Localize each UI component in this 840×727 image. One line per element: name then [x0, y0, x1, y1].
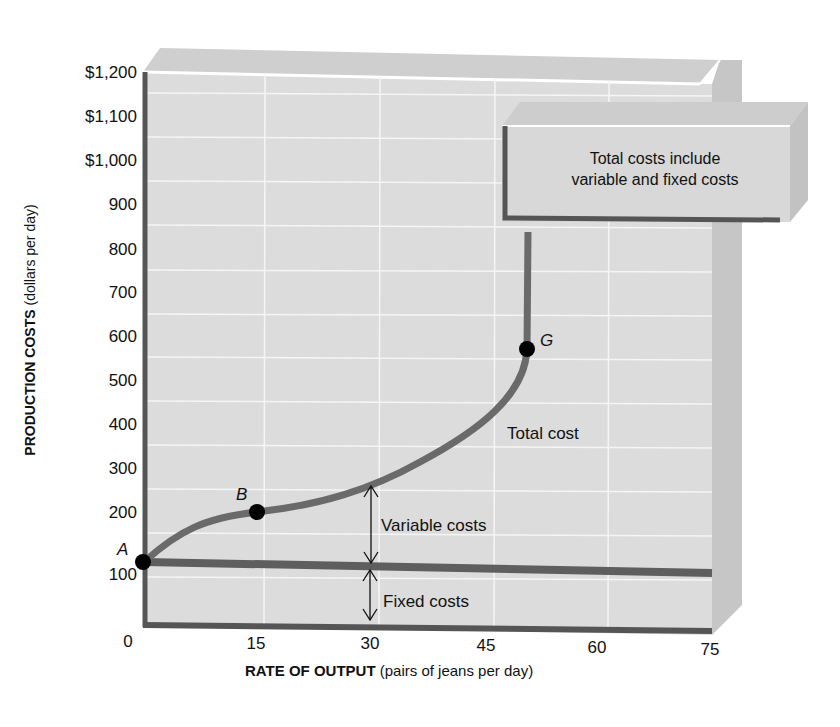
x-axis-label: RATE OF OUTPUT (pairs of jeans per day) [245, 662, 533, 679]
point-b-label: B [236, 485, 247, 505]
point-b-marker [249, 504, 265, 520]
point-g-marker [519, 341, 535, 357]
fixed-costs-label: Fixed costs [383, 592, 469, 612]
variable-costs-label: Variable costs [381, 516, 487, 536]
total-cost-chart: $1,200 $1,100 $1,000 900 800 700 600 500… [0, 0, 840, 727]
point-g-label: G [540, 331, 553, 351]
x-axis-label-units: (pairs of jeans per day) [376, 662, 534, 679]
callout-line-2: variable and fixed costs [510, 169, 800, 190]
x-tick-60: 60 [588, 638, 607, 658]
point-a-label: A [117, 540, 128, 560]
y-axis-label: PRODUCTION COSTS (dollars per day) [22, 204, 38, 455]
callout-line-1: Total costs include [510, 148, 800, 169]
x-tick-15: 15 [247, 634, 266, 654]
x-axis-label-bold: RATE OF OUTPUT [245, 662, 376, 679]
callout-text: Total costs include variable and fixed c… [510, 148, 800, 190]
y-axis-label-bold: PRODUCTION COSTS [22, 309, 38, 455]
y-axis-label-units: (dollars per day) [22, 204, 38, 309]
callout-top-face [502, 102, 808, 126]
x-tick-75: 75 [701, 640, 720, 660]
total-cost-label: Total cost [507, 424, 579, 444]
x-tick-30: 30 [361, 634, 380, 654]
x-tick-0: 0 [123, 632, 132, 652]
x-tick-45: 45 [477, 636, 496, 656]
